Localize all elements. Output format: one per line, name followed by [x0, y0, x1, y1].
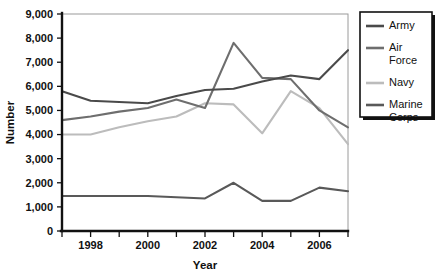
series-line-air-force [62, 43, 348, 127]
legend-label-cont: Force [389, 54, 417, 66]
series-group [62, 43, 348, 201]
y-tick-label: 8,000 [25, 32, 53, 44]
y-tick-label: 3,000 [25, 153, 53, 165]
series-line-marine-corps [62, 183, 348, 201]
y-tick-label: 1,000 [25, 201, 53, 213]
y-axis-title: Number [4, 100, 16, 144]
y-tick-label: 9,000 [25, 8, 53, 20]
x-tick-label: 1998 [78, 239, 102, 251]
legend-label: Marine [389, 98, 423, 110]
y-tick-label: 4,000 [25, 128, 53, 140]
y-tick-label: 2,000 [25, 177, 53, 189]
x-tick-label: 2000 [136, 239, 160, 251]
y-axis-ticks: 01,0002,0003,0004,0005,0006,0007,0008,00… [25, 8, 62, 237]
x-axis-title: Year [193, 259, 218, 271]
y-tick-label: 5,000 [25, 104, 53, 116]
line-chart: 01,0002,0003,0004,0005,0006,0007,0008,00… [0, 0, 440, 274]
x-tick-label: 2004 [250, 239, 275, 251]
legend-label-cont: Corps [389, 111, 419, 123]
x-tick-label: 2006 [307, 239, 331, 251]
chart-svg: 01,0002,0003,0004,0005,0006,0007,0008,00… [0, 0, 440, 274]
x-axis-ticks: 19982000200220042006 [62, 231, 348, 251]
legend-label: Army [389, 19, 415, 31]
legend: ArmyAirForceNavyMarineCorps [360, 12, 435, 123]
series-line-navy [62, 91, 348, 144]
y-tick-label: 0 [47, 225, 53, 237]
x-tick-label: 2002 [193, 239, 217, 251]
legend-label: Navy [389, 76, 415, 88]
y-tick-label: 7,000 [25, 56, 53, 68]
legend-label: Air [389, 41, 403, 53]
y-tick-label: 6,000 [25, 80, 53, 92]
